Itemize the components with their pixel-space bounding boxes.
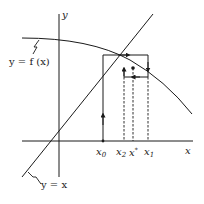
x-axis-label: x xyxy=(185,146,191,156)
point-label-x1: x1 xyxy=(144,147,154,159)
point-label-x2: x2 xyxy=(116,147,126,159)
function-label-leader xyxy=(33,40,39,54)
identity-label: y = x xyxy=(41,180,67,190)
cobweb-diagram: y x y = f (x) y = x x0 x2 x* x1 xyxy=(0,0,204,204)
x0-marker xyxy=(102,140,105,143)
diagram-canvas xyxy=(0,0,204,204)
identity-label-leader xyxy=(28,172,41,184)
point-label-x0: x0 xyxy=(96,147,106,159)
point-label-xstar: x* xyxy=(129,147,138,158)
function-label: y = f (x) xyxy=(9,57,50,67)
y-axis-label: y xyxy=(62,10,68,20)
function-curve xyxy=(22,38,192,114)
